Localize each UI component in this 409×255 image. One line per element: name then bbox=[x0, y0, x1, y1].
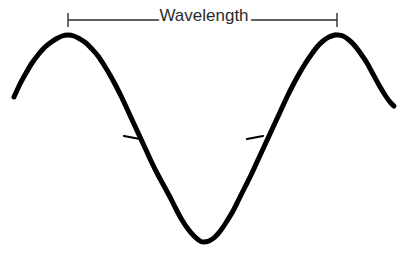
wavelength-label: Wavelength bbox=[159, 6, 248, 25]
wavelength-diagram: Wavelength Wavelength bbox=[0, 0, 409, 255]
wave-figure: Wavelength Wavelength bbox=[0, 0, 409, 255]
